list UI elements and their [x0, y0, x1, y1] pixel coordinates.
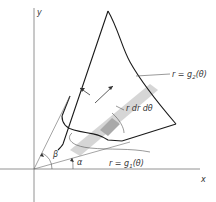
g1-label: r = g1(θ) — [109, 159, 144, 169]
g2-leader — [136, 74, 170, 76]
bottom-boundary — [122, 124, 176, 141]
g2-label: r = g2(θ) — [172, 70, 207, 80]
beta-label: β — [52, 150, 58, 159]
ray-beta — [34, 96, 70, 169]
x-axis-label: x — [200, 175, 206, 184]
polar-region-diagram: y x r = g2(θ) r dr dθ r = g1(θ) β α — [0, 0, 216, 202]
y-axis-label: y — [36, 8, 42, 17]
alpha-label: α — [77, 158, 83, 167]
element-label: r dr dθ — [126, 104, 153, 113]
